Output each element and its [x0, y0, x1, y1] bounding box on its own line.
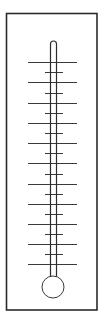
thermometer-tube [51, 41, 57, 277]
thermometer-bulb [42, 276, 64, 298]
thermometer-diagram [0, 0, 107, 321]
frame-border [7, 14, 98, 311]
thermometer-canvas [0, 0, 107, 321]
